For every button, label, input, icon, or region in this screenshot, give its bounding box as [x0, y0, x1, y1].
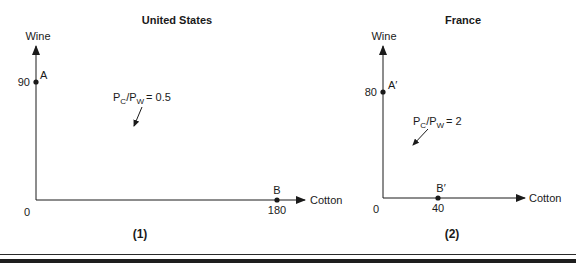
point-a-prime-label: A′ [388, 79, 397, 91]
panel-label: (1) [133, 227, 148, 241]
chart-france: France Wine Cotton 0 80 A′ 40 B′ PC/PW= … [365, 14, 562, 241]
point-b-label: B [273, 184, 280, 196]
panel-label: (2) [445, 227, 460, 241]
point-b-prime [435, 195, 440, 200]
point-b-prime-label: B′ [436, 182, 445, 194]
origin-label: 0 [373, 203, 379, 215]
chart-united-states: United States Wine Cotton 0 90 A 180 B P… [18, 14, 343, 241]
annotation-arrow [413, 129, 428, 145]
divider-thick [0, 259, 576, 263]
annotation-arrow [134, 107, 142, 126]
point-a [33, 79, 38, 84]
point-a-prime [380, 89, 385, 94]
origin-label: 0 [24, 206, 30, 218]
x-axis-label: Cotton [310, 194, 342, 206]
price-ratio-annotation: PC/PW= 0.5 [113, 91, 171, 106]
point-b [274, 197, 279, 202]
chart-title: France [445, 14, 481, 26]
x-tick-label: 40 [432, 202, 444, 214]
y-tick-label: 80 [365, 86, 377, 98]
y-axis-label: Wine [25, 30, 50, 42]
figure: United States Wine Cotton 0 90 A 180 B P… [0, 0, 576, 263]
y-tick-label: 90 [18, 76, 30, 88]
point-a-label: A [40, 69, 48, 81]
x-tick-label: 180 [268, 204, 286, 216]
chart-title: United States [142, 14, 212, 26]
y-axis-label: Wine [371, 30, 396, 42]
price-ratio-annotation: PC/PW= 2 [413, 115, 462, 130]
x-axis-label: Cotton [529, 192, 561, 204]
